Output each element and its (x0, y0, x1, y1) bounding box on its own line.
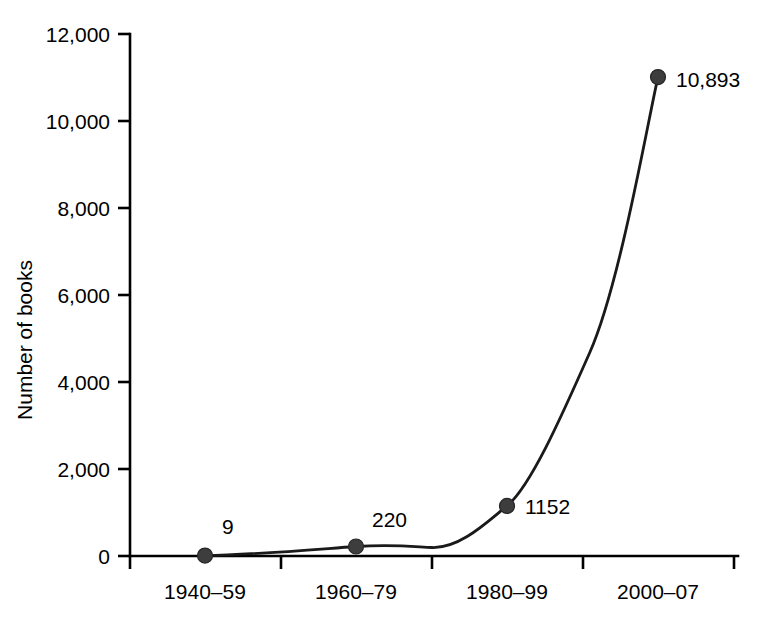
data-label-1940-59: 9 (222, 515, 234, 538)
data-label-1980-99: 1152 (525, 495, 570, 518)
data-label-1960-79: 220 (372, 508, 407, 531)
y-tick-label-8000: 8,000 (57, 197, 110, 220)
line-chart: 12,000 10,000 8,000 6,000 4,000 2,000 0 … (0, 0, 760, 622)
y-tick-label-12000: 12,000 (46, 23, 110, 46)
y-tick-label-10000: 10,000 (46, 110, 110, 133)
data-point-marker-1940-59 (198, 548, 213, 563)
data-point-marker-1980-99 (500, 498, 515, 513)
y-tick-label-4000: 4,000 (57, 371, 110, 394)
data-point-marker-1960-79 (349, 539, 364, 554)
data-point-marker-2000-07 (651, 70, 666, 85)
y-tick-label-6000: 6,000 (57, 284, 110, 307)
x-tick-label-0: 1940–59 (164, 580, 246, 603)
data-label-2000-07: 10,893 (676, 68, 740, 91)
x-tick-label-3: 2000–07 (617, 580, 699, 603)
y-tick-label-2000: 2,000 (57, 458, 110, 481)
y-tick-label-0: 0 (98, 545, 110, 568)
chart-container: 12,000 10,000 8,000 6,000 4,000 2,000 0 … (0, 0, 760, 622)
y-axis-title: Number of books (13, 260, 36, 420)
x-tick-label-1: 1960–79 (315, 580, 397, 603)
x-tick-label-2: 1980–99 (466, 580, 548, 603)
